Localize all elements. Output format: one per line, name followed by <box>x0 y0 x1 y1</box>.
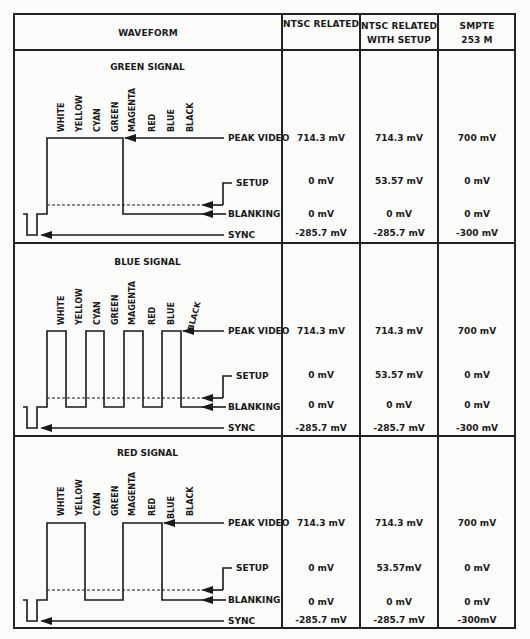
bar-label-green: GREEN <box>111 295 120 325</box>
red-smpte-blanking: 0 mV <box>439 597 515 607</box>
bar-label-cyan: CYAN <box>93 301 102 325</box>
blue-ntsc-setup-blanking: 0 mV <box>361 400 437 410</box>
label-sync: SYNC <box>228 423 255 433</box>
green-ntsc-blanking: 0 mV <box>283 209 359 219</box>
bar-label-black: BLACK <box>186 102 195 132</box>
label-blanking: BLANKING <box>228 209 280 219</box>
peak-arrow-icon <box>124 134 136 142</box>
bar-label-green: GREEN <box>111 486 120 516</box>
column-divider-2 <box>359 13 361 629</box>
red-ntsc-setup-peak: 714.3 mV <box>361 518 437 528</box>
label-peak-video: PEAK VIDEO <box>228 133 289 143</box>
bar-label-yellow: YELLOW <box>75 288 84 326</box>
red-smpte-setup: 0 mV <box>439 563 515 573</box>
header-smpte-line1: SMPTE <box>460 19 495 33</box>
red-ntsc-setup: 0 mV <box>283 563 359 573</box>
label-peak-video: PEAK VIDEO <box>228 326 289 336</box>
bar-label-yellow: YELLOW <box>75 95 84 133</box>
green-ntsc-setup-blanking: 0 mV <box>361 209 437 219</box>
red-smpte-peak: 700 mV <box>439 518 515 528</box>
label-setup: SETUP <box>236 371 269 381</box>
header-ntsc-setup-line1: NTSC RELATED <box>361 19 437 33</box>
red-ntsc-setup-sync: -285.7 mV <box>361 615 437 625</box>
green-smpte-setup: 0 mV <box>439 176 515 186</box>
blue-smpte-setup: 0 mV <box>439 370 515 380</box>
bar-label-red: RED <box>148 113 157 132</box>
bar-label-magenta: MAGENTA <box>128 471 137 516</box>
header-smpte: SMPTE 253 M <box>439 15 515 50</box>
sync-arrow-icon <box>40 231 52 239</box>
blanking-arrow-icon <box>201 210 213 218</box>
column-divider-1 <box>281 13 283 629</box>
bar-label-green: GREEN <box>111 102 120 132</box>
red-smpte-sync: -300mV <box>439 615 515 625</box>
bar-label-white: WHITE <box>57 487 66 516</box>
label-sync: SYNC <box>228 616 255 626</box>
bar-label-yellow: YELLOW <box>75 479 84 517</box>
bar-label-black: BLACK <box>186 300 203 332</box>
label-setup: SETUP <box>236 178 269 188</box>
blue-smpte-sync: -300 mV <box>439 423 515 433</box>
green-smpte-peak: 700 mV <box>439 133 515 143</box>
blue-ntsc-peak: 714.3 mV <box>283 326 359 336</box>
bar-label-white: WHITE <box>57 296 66 325</box>
sync-arrow-icon <box>40 617 52 625</box>
bar-label-cyan: CYAN <box>93 108 102 132</box>
column-divider-3 <box>437 13 439 629</box>
green-ntsc-setup-peak: 714.3 mV <box>361 133 437 143</box>
blue-ntsc-setup-setup: 53.57 mV <box>361 370 437 380</box>
setup-arrow-icon <box>201 586 213 594</box>
bar-label-blue: BLUE <box>167 496 176 519</box>
header-ntsc-with-setup: NTSC RELATED WITH SETUP <box>361 15 437 50</box>
label-blanking: BLANKING <box>228 402 280 412</box>
label-setup: SETUP <box>236 563 269 573</box>
bar-label-magenta: MAGENTA <box>128 87 137 132</box>
red-ntsc-setup-blanking: 0 mV <box>361 597 437 607</box>
header-ntsc-related: NTSC RELATED <box>283 15 359 50</box>
green-ntsc-peak: 714.3 mV <box>283 133 359 143</box>
blanking-arrow-icon <box>201 403 213 411</box>
label-blanking: BLANKING <box>228 595 280 605</box>
blue-ntsc-setup: 0 mV <box>283 370 359 380</box>
blue-smpte-peak: 700 mV <box>439 326 515 336</box>
peak-arrow-icon <box>163 519 175 527</box>
setup-arrow-icon <box>201 394 213 402</box>
green-ntsc-setup: 0 mV <box>283 176 359 186</box>
bar-label-white: WHITE <box>57 103 66 132</box>
bar-label-magenta: MAGENTA <box>128 280 137 325</box>
green-smpte-blanking: 0 mV <box>439 209 515 219</box>
setup-arrow-icon <box>201 201 213 209</box>
bar-label-red: RED <box>148 306 157 325</box>
blue-ntsc-setup-peak: 714.3 mV <box>361 326 437 336</box>
sync-arrow-icon <box>40 424 52 432</box>
red-ntsc-sync: -285.7 mV <box>283 615 359 625</box>
green-ntsc-setup-setup: 53.57 mV <box>361 176 437 186</box>
red-ntsc-peak: 714.3 mV <box>283 518 359 528</box>
blue-ntsc-setup-sync: -285.7 mV <box>361 423 437 433</box>
green-smpte-sync: -300 mV <box>439 228 515 238</box>
header-ntsc-setup-line2: WITH SETUP <box>367 33 431 47</box>
bar-label-blue: BLUE <box>167 302 176 325</box>
green-ntsc-sync: -285.7 mV <box>283 228 359 238</box>
label-peak-video: PEAK VIDEO <box>228 518 289 528</box>
green-ntsc-setup-sync: -285.7 mV <box>361 228 437 238</box>
bar-label-black: BLACK <box>186 486 195 516</box>
bar-label-cyan: CYAN <box>93 492 102 516</box>
label-sync: SYNC <box>228 230 255 240</box>
blue-ntsc-blanking: 0 mV <box>283 400 359 410</box>
blanking-arrow-icon <box>201 596 213 604</box>
header-waveform-label: WAVEFORM <box>118 26 177 40</box>
header-smpte-line2: 253 M <box>461 33 492 47</box>
red-ntsc-blanking: 0 mV <box>283 597 359 607</box>
blue-ntsc-sync: -285.7 mV <box>283 423 359 433</box>
header-ntsc-related-label: NTSC RELATED <box>283 17 359 31</box>
bar-label-red: RED <box>148 497 157 516</box>
red-ntsc-setup-setup: 53.57mV <box>361 563 437 573</box>
header-waveform: WAVEFORM <box>15 15 281 50</box>
blue-smpte-blanking: 0 mV <box>439 400 515 410</box>
bar-label-blue: BLUE <box>167 109 176 132</box>
